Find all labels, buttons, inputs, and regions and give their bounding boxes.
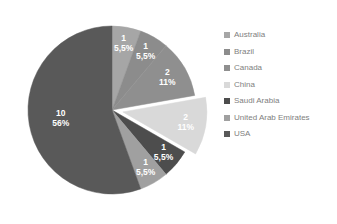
legend-swatch-icon [224, 98, 230, 104]
legend-item[interactable]: Saudi Arabia [224, 93, 337, 110]
legend-swatch-icon [224, 32, 230, 38]
pie-plot-area: 15,5%15,5%211%211%15,5%15,5%1056% [0, 0, 215, 224]
pie-slice-percent-label: 11% [177, 122, 194, 132]
legend-item-label: Brazil [234, 48, 254, 56]
legend-swatch-icon [224, 49, 230, 55]
legend-item-label: Saudi Arabia [234, 97, 279, 105]
legend-swatch-icon [224, 115, 230, 121]
pie-slice-value-label: 1 [161, 142, 166, 152]
legend-item[interactable]: China [224, 77, 337, 94]
pie-slice-percent-label: 5,5% [154, 152, 174, 162]
pie-slice-percent-label: 5,5% [136, 51, 156, 61]
legend-item[interactable]: Australia [224, 27, 337, 44]
pie-chart-figure: 15,5%15,5%211%211%15,5%15,5%1056% Austra… [0, 0, 337, 224]
pie-slice-value-label: 10 [56, 108, 66, 118]
pie-slice-percent-label: 11% [159, 77, 176, 87]
pie-slice-value-label: 1 [143, 41, 148, 51]
legend-swatch-icon [224, 82, 230, 88]
legend-item[interactable]: Brazil [224, 44, 337, 61]
legend-item-label: USA [234, 130, 250, 138]
legend-item[interactable]: United Arab Emirates [224, 110, 337, 127]
legend-item[interactable]: USA [224, 126, 337, 143]
legend-item-label: China [234, 81, 255, 89]
pie-slice-value-label: 2 [183, 112, 188, 122]
pie-slice-value-label: 1 [121, 33, 126, 43]
legend: AustraliaBrazilCanadaChinaSaudi ArabiaUn… [224, 27, 337, 143]
legend-item[interactable]: Canada [224, 60, 337, 77]
pie-slice-value-label: 2 [165, 67, 170, 77]
pie-slice-value-label: 1 [143, 157, 148, 167]
pie-slice-percent-label: 5,5% [136, 167, 156, 177]
legend-swatch-icon [224, 65, 230, 71]
pie-slice-percent-label: 56% [52, 118, 69, 128]
pie-svg: 15,5%15,5%211%211%15,5%15,5%1056% [0, 0, 215, 224]
legend-item-label: United Arab Emirates [234, 114, 310, 122]
legend-item-label: Australia [234, 31, 265, 39]
legend-swatch-icon [224, 131, 230, 137]
legend-item-label: Canada [234, 64, 262, 72]
pie-slice-percent-label: 5,5% [114, 43, 134, 53]
